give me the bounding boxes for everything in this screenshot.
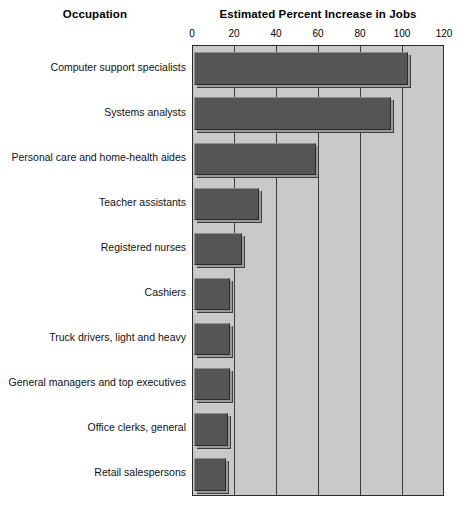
bar-row bbox=[193, 52, 443, 84]
category-label: Office clerks, general bbox=[0, 421, 186, 433]
category-label: Cashiers bbox=[0, 286, 186, 298]
occupation-column-header: Occupation bbox=[0, 8, 190, 20]
category-axis-labels: Computer support specialistsSystems anal… bbox=[0, 45, 186, 496]
x-tick-label: 20 bbox=[228, 28, 239, 39]
bar[interactable] bbox=[194, 413, 228, 445]
bar[interactable] bbox=[194, 188, 259, 220]
bar-row bbox=[193, 188, 443, 220]
plot-area bbox=[192, 45, 444, 496]
bar-row bbox=[193, 413, 443, 445]
bar-row bbox=[193, 323, 443, 355]
x-tick-label: 80 bbox=[354, 28, 365, 39]
category-label: General managers and top executives bbox=[0, 376, 186, 388]
bar[interactable] bbox=[194, 368, 230, 400]
x-tick-label: 120 bbox=[436, 28, 453, 39]
x-tick-label: 60 bbox=[312, 28, 323, 39]
bar-series bbox=[193, 46, 443, 495]
bar-row bbox=[193, 233, 443, 265]
bar[interactable] bbox=[194, 233, 242, 265]
category-label: Computer support specialists bbox=[0, 61, 186, 73]
category-label: Truck drivers, light and heavy bbox=[0, 331, 186, 343]
x-tick-label: 0 bbox=[189, 28, 195, 39]
bar[interactable] bbox=[194, 143, 316, 175]
bar-row bbox=[193, 97, 443, 129]
x-axis: 020406080100120 bbox=[192, 28, 444, 43]
bar-row bbox=[193, 458, 443, 490]
bar-row bbox=[193, 368, 443, 400]
bar[interactable] bbox=[194, 323, 230, 355]
bar-row bbox=[193, 143, 443, 175]
x-tick-label: 100 bbox=[394, 28, 411, 39]
category-label: Retail salespersons bbox=[0, 466, 186, 478]
bar-row bbox=[193, 278, 443, 310]
bar[interactable] bbox=[194, 97, 391, 129]
category-label: Teacher assistants bbox=[0, 196, 186, 208]
chart-title: Estimated Percent Increase in Jobs bbox=[192, 8, 444, 20]
bar[interactable] bbox=[194, 458, 226, 490]
category-label: Systems analysts bbox=[0, 106, 186, 118]
bar[interactable] bbox=[194, 278, 230, 310]
x-tick-label: 40 bbox=[270, 28, 281, 39]
bar[interactable] bbox=[194, 52, 408, 84]
category-label: Registered nurses bbox=[0, 241, 186, 253]
bar-chart: Occupation Estimated Percent Increase in… bbox=[0, 0, 468, 508]
category-label: Personal care and home-health aides bbox=[0, 151, 186, 163]
